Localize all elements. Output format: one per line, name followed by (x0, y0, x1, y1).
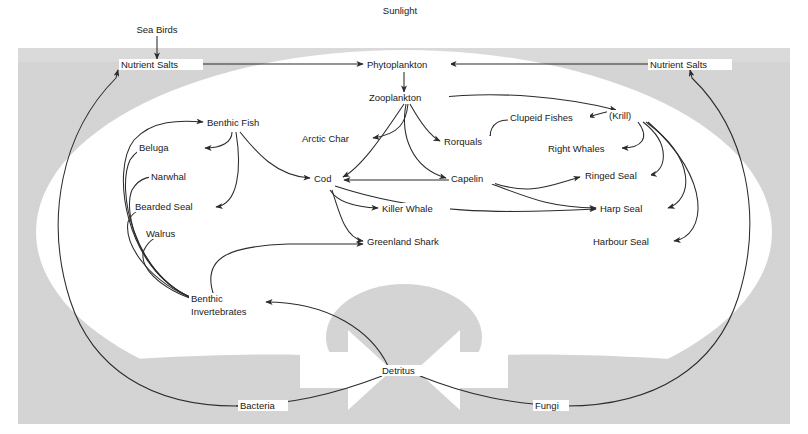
node-label-benthic-invertebrates-line2: Invertebrates (191, 306, 247, 317)
food-web-canvas: Sunlight Sea Birds Nutrient Salts Phytop… (0, 0, 808, 434)
node-label-harbour-seal: Harbour Seal (593, 236, 649, 247)
node-label-sea-birds: Sea Birds (136, 24, 177, 35)
node-label-rorquals: Rorquals (444, 136, 482, 147)
node-label-benthic-invertebrates-line1: Benthic (191, 293, 223, 304)
node-label-sunlight: Sunlight (383, 5, 418, 16)
node-label-right-whales: Right Whales (548, 143, 605, 154)
node-label-greenland-shark: Greenland Shark (367, 236, 439, 247)
node-label-bearded-seal: Bearded Seal (135, 201, 193, 212)
node-label-ringed-seal: Ringed Seal (585, 170, 637, 181)
node-label-capelin: Capelin (451, 173, 483, 184)
node-label-cod: Cod (314, 173, 331, 184)
node-label-narwhal: Narwhal (151, 171, 186, 182)
node-label-clupeid-fishes: Clupeid Fishes (510, 112, 573, 123)
node-label-killer-whale: Killer Whale (382, 203, 433, 214)
node-label-harp-seal: Harp Seal (600, 203, 642, 214)
node-label-zooplankton: Zooplankton (369, 92, 421, 103)
node-label-fungi: Fungi (535, 400, 559, 411)
node-label-benthic-fish: Benthic Fish (207, 117, 259, 128)
node-label-nutrient-salts-right: Nutrient Salts (650, 59, 707, 70)
node-label-detritus: Detritus (382, 365, 415, 376)
node-label-bacteria: Bacteria (240, 400, 276, 411)
node-label-arctic-char: Arctic Char (302, 133, 349, 144)
food-web-diagram: Sunlight Sea Birds Nutrient Salts Phytop… (0, 0, 808, 434)
node-label-nutrient-salts-left: Nutrient Salts (121, 59, 178, 70)
node-label-krill: (Krill) (609, 110, 631, 121)
node-label-beluga: Beluga (139, 142, 169, 153)
node-label-phytoplankton: Phytoplankton (367, 59, 427, 70)
node-label-walrus: Walrus (146, 228, 175, 239)
